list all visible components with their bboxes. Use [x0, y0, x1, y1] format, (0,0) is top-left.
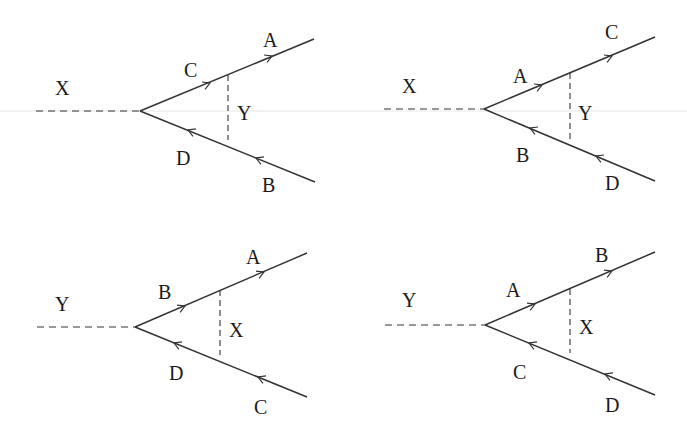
external-boson-label: X — [402, 75, 417, 97]
internal-boson-label: X — [229, 319, 244, 341]
diagram-top-right: X A C Y B D — [384, 21, 655, 194]
upper-inner-label: C — [184, 59, 197, 81]
lower-fermion-line — [135, 327, 307, 397]
lower-inner-label: B — [516, 144, 529, 166]
upper-inner-label: B — [158, 281, 171, 303]
external-boson-label: X — [55, 77, 70, 99]
internal-boson-label: X — [579, 316, 594, 338]
upper-outer-label: A — [246, 246, 261, 268]
upper-outer-label: C — [605, 21, 618, 43]
lower-outer-label: D — [605, 172, 619, 194]
lower-inner-label: C — [513, 361, 526, 383]
lower-fermion-line — [140, 111, 315, 182]
lower-outer-label: B — [262, 174, 275, 196]
upper-outer-label: A — [263, 29, 278, 51]
external-boson-label: Y — [55, 293, 69, 315]
lower-inner-label: D — [176, 147, 190, 169]
lower-inner-label: D — [169, 362, 183, 384]
diagram-top-left: X C A Y D B — [36, 29, 315, 196]
upper-fermion-line — [140, 39, 314, 111]
upper-outer-label: B — [595, 244, 608, 266]
diagram-bottom-right: Y A B X C D — [385, 244, 655, 416]
lower-outer-label: C — [254, 396, 267, 418]
upper-inner-label: A — [513, 65, 528, 87]
lower-fermion-line — [484, 109, 655, 181]
internal-boson-label: Y — [237, 102, 251, 124]
feynman-diagrams-figure: X C A Y D B X A C Y B D Y B A X D — [0, 0, 687, 427]
lower-fermion-line — [485, 325, 655, 395]
diagram-bottom-left: Y B A X D C — [37, 246, 307, 418]
upper-inner-label: A — [506, 279, 521, 301]
lower-outer-label: D — [605, 394, 619, 416]
internal-boson-label: Y — [578, 102, 592, 124]
external-boson-label: Y — [402, 289, 416, 311]
